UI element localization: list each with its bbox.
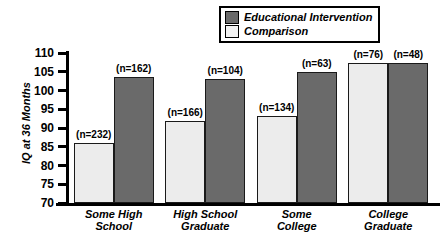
- bar-n-label: (n=134): [251, 103, 303, 113]
- bar-n-label: (n=232): [68, 130, 120, 140]
- y-axis-tick: [58, 183, 67, 186]
- y-axis-tick: [58, 164, 67, 167]
- legend-item-educational-intervention: Educational Intervention: [225, 11, 372, 24]
- bar-n-label: (n=166): [159, 108, 211, 118]
- y-axis-tick: [58, 70, 67, 73]
- bar-intervention: [205, 79, 245, 203]
- y-axis-tick-label: 80: [20, 160, 54, 172]
- y-axis-tick-label: 110: [20, 47, 54, 59]
- y-axis-tick-label: 90: [20, 122, 54, 134]
- category-label-line: Graduate: [333, 220, 444, 232]
- legend-swatch-comparison: [225, 25, 239, 38]
- y-axis-tick-label: 105: [20, 66, 54, 78]
- bar-comparison: [165, 121, 205, 204]
- y-axis-tick: [58, 52, 67, 55]
- legend-swatch-intervention: [225, 11, 239, 24]
- y-axis-tick: [58, 108, 67, 111]
- y-axis-tick-label: 75: [20, 178, 54, 190]
- bar-comparison: [74, 143, 114, 203]
- y-axis-tick: [58, 145, 67, 148]
- chart-legend: Educational Intervention Comparison: [219, 6, 380, 43]
- bar-intervention: [297, 72, 337, 203]
- bar-intervention: [114, 77, 154, 203]
- bar-comparison: [348, 63, 388, 203]
- y-axis-tick-label: 85: [20, 141, 54, 153]
- category-label-line: College: [333, 208, 444, 220]
- y-axis-tick: [58, 89, 67, 92]
- y-axis-tick-label: 100: [20, 85, 54, 97]
- legend-label-intervention: Educational Intervention: [244, 12, 372, 23]
- y-axis-tick: [58, 127, 67, 130]
- bar-n-label: (n=104): [199, 66, 251, 76]
- bar-n-label: (n=162): [108, 64, 160, 74]
- legend-item-comparison: Comparison: [225, 25, 372, 38]
- bar-intervention: [388, 63, 428, 203]
- x-axis-line: [56, 203, 440, 206]
- bar-n-label: (n=63): [291, 59, 343, 69]
- bar-n-label: (n=48): [382, 50, 434, 60]
- bar-comparison: [257, 116, 297, 203]
- y-axis-tick-label: 70: [20, 197, 54, 209]
- x-axis-category-label: CollegeGraduate: [333, 208, 444, 232]
- y-axis-tick: [58, 202, 67, 205]
- y-axis-tick-label: 95: [20, 103, 54, 115]
- bar-chart: Educational Intervention Comparison IQ a…: [0, 0, 444, 244]
- plot-area: (n=232)(n=162)(n=166)(n=104)(n=134)(n=63…: [68, 53, 434, 203]
- legend-label-comparison: Comparison: [244, 26, 308, 37]
